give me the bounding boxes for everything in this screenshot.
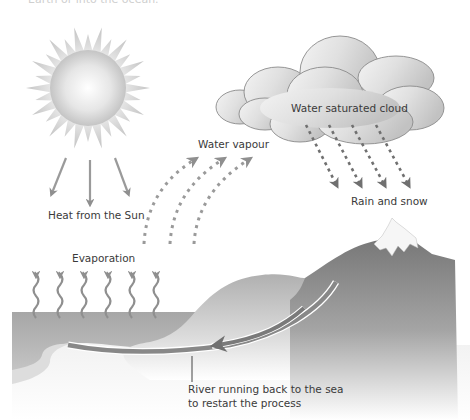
vapour-arrow (194, 160, 248, 244)
sun-label: Heat from the Sun (48, 209, 145, 221)
evaporation-arrow (106, 274, 111, 318)
heat-arrows (52, 158, 128, 203)
evaporation-arrow (58, 274, 63, 318)
cloud-label: Water saturated cloud (291, 102, 408, 114)
evaporation-arrows (34, 274, 159, 318)
evaporation-arrow (34, 274, 39, 318)
title-fragment: Earth or into the ocean. (28, 0, 159, 6)
rain-label: Rain and snow (351, 195, 428, 207)
sun-core (50, 50, 126, 126)
vapour-label: Water vapour (198, 138, 270, 150)
sun-icon (26, 28, 150, 149)
evaporation-arrow (82, 274, 87, 318)
vapour-arrow (144, 160, 194, 244)
river-label-line2: to restart the process (188, 397, 301, 409)
evaporation-label: Evaporation (72, 252, 135, 264)
heat-arrow (52, 158, 66, 193)
water-cycle-diagram: Earth or into the ocean. Heat from the S… (0, 0, 470, 420)
heat-arrow (115, 158, 128, 193)
evaporation-arrow (130, 274, 135, 318)
vapour-arrows (144, 160, 248, 244)
evaporation-arrow (154, 274, 159, 318)
river-label-line1: River running back to the sea (188, 383, 344, 395)
